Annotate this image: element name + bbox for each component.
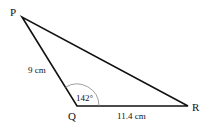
triangle-diagram: P Q R 9 cm 11.4 cm 142° [0, 0, 207, 127]
triangle-pqr [22, 17, 188, 106]
angle-label-q: 142° [76, 93, 94, 103]
vertex-label-p: P [10, 6, 16, 18]
side-label-qr: 11.4 cm [117, 111, 146, 121]
vertex-label-q: Q [68, 110, 76, 122]
vertex-label-r: R [192, 101, 200, 113]
side-label-pq: 9 cm [28, 65, 46, 75]
